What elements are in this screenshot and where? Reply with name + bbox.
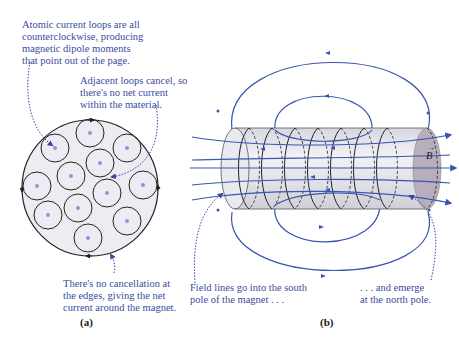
vector-arrow-icon: → (427, 143, 435, 152)
annotation-loops-counterclockwise: Atomic current loops are all countercloc… (22, 19, 143, 67)
annotation-emerge-north-pole: . . . and emerge at the north pole. (360, 282, 431, 306)
panel-a-label: (a) (80, 316, 93, 328)
field-vector-label: → B (426, 150, 432, 161)
annotation-edge-no-cancellation: There's no cancellation at the edges, gi… (63, 278, 176, 314)
annotation-field-into-south-pole: Field lines go into the south pole of th… (190, 282, 307, 306)
panel-b-label: (b) (320, 316, 333, 328)
annotation-adjacent-loops-cancel: Adjacent loops cancel, so there's no net… (80, 75, 187, 111)
panel-b-bar-magnet-field (190, 51, 455, 283)
